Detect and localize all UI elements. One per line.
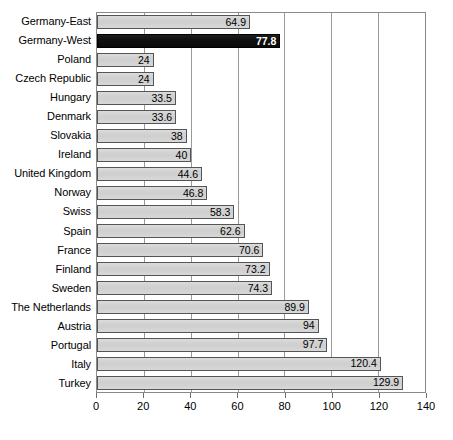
bar-row: 24 (97, 70, 425, 89)
bar-row: 94 (97, 316, 425, 335)
bar-value-label: 24 (138, 55, 153, 66)
bar-value-label: 24 (138, 74, 153, 85)
category-label: Norway (0, 183, 94, 202)
bar: 74.3 (97, 281, 272, 295)
category-label: Swiss (0, 202, 94, 221)
x-axis-tick-label: 0 (93, 401, 99, 412)
bar: 77.8 (97, 34, 280, 48)
bar: 33.5 (97, 91, 176, 105)
category-label: Turkey (0, 374, 94, 393)
bar-row: 58.3 (97, 203, 425, 222)
x-axis-tick-label: 80 (278, 401, 290, 412)
bar-value-label: 129.9 (373, 377, 402, 388)
x-axis-tick (426, 393, 427, 398)
category-label: The Netherlands (0, 298, 94, 317)
bar-row: 129.9 (97, 373, 425, 392)
bar: 62.6 (97, 224, 245, 238)
bar-value-label: 64.9 (226, 17, 249, 28)
bar: 129.9 (97, 376, 403, 390)
bar: 44.6 (97, 167, 202, 181)
bar-value-label: 89.9 (284, 302, 307, 313)
bar-value-label: 40 (176, 150, 191, 161)
category-axis: Germany-EastGermany-WestPolandCzech Repu… (0, 12, 94, 393)
category-label: Hungary (0, 88, 94, 107)
bar: 33.6 (97, 110, 176, 124)
category-label: United Kingdom (0, 164, 94, 183)
category-label: Portugal (0, 336, 94, 355)
bar: 46.8 (97, 186, 207, 200)
bar: 94 (97, 319, 319, 333)
bar: 64.9 (97, 15, 250, 29)
bar: 58.3 (97, 205, 234, 219)
bar-row: 33.6 (97, 108, 425, 127)
category-label: Austria (0, 317, 94, 336)
bar: 120.4 (97, 357, 381, 371)
x-axis-tick (332, 393, 333, 398)
x-axis-tick-label: 100 (323, 401, 341, 412)
x-axis-tick-label: 120 (370, 401, 388, 412)
bar: 24 (97, 72, 154, 86)
bar-value-label: 77.8 (256, 36, 279, 47)
bar-value-label: 33.5 (152, 93, 175, 104)
bar: 70.6 (97, 243, 263, 257)
category-label: Germany-West (0, 31, 94, 50)
category-label: France (0, 241, 94, 260)
bar-row: 40 (97, 146, 425, 165)
bar-row: 38 (97, 127, 425, 146)
bar-value-label: 33.6 (152, 112, 175, 123)
category-label: Italy (0, 355, 94, 374)
bar-row: 46.8 (97, 184, 425, 203)
x-axis-tick (379, 393, 380, 398)
plot-area: 64.977.8242433.533.6384044.646.858.362.6… (96, 12, 426, 393)
bar-value-label: 46.8 (183, 188, 206, 199)
x-axis-tick-label: 40 (184, 401, 196, 412)
bar-row: 89.9 (97, 297, 425, 316)
category-label: Germany-East (0, 12, 94, 31)
bar-row: 44.6 (97, 165, 425, 184)
bar-row: 77.8 (97, 32, 425, 51)
bar-row: 73.2 (97, 259, 425, 278)
category-label: Slovakia (0, 126, 94, 145)
x-axis: 020406080100120140 (96, 393, 426, 433)
category-label: Spain (0, 222, 94, 241)
x-axis-tick-label: 60 (231, 401, 243, 412)
bar: 24 (97, 53, 154, 67)
bar-value-label: 38 (171, 131, 186, 142)
bar-value-label: 70.6 (239, 245, 262, 256)
bar-series: 64.977.8242433.533.6384044.646.858.362.6… (97, 13, 425, 392)
x-axis-tick-label: 20 (137, 401, 149, 412)
bar-value-label: 58.3 (210, 207, 233, 218)
bar-value-label: 94 (303, 320, 318, 331)
bar-row: 70.6 (97, 240, 425, 259)
bar-row: 97.7 (97, 335, 425, 354)
bar-value-label: 97.7 (303, 339, 326, 350)
x-axis-tick-label: 140 (417, 401, 435, 412)
category-label: Czech Republic (0, 69, 94, 88)
category-label: Denmark (0, 107, 94, 126)
bar-value-label: 74.3 (248, 283, 271, 294)
bar-row: 62.6 (97, 221, 425, 240)
bar-row: 64.9 (97, 13, 425, 32)
bar-value-label: 44.6 (178, 169, 201, 180)
category-label: Finland (0, 260, 94, 279)
bar-row: 120.4 (97, 354, 425, 373)
x-axis-tick (285, 393, 286, 398)
x-axis-tick (96, 393, 97, 398)
bar-chart: Germany-EastGermany-WestPolandCzech Repu… (0, 0, 453, 440)
bar: 38 (97, 129, 187, 143)
bar-value-label: 120.4 (351, 358, 380, 369)
category-label: Sweden (0, 279, 94, 298)
bar-value-label: 62.6 (220, 226, 243, 237)
category-label: Poland (0, 50, 94, 69)
bar: 40 (97, 148, 191, 162)
x-axis-tick (237, 393, 238, 398)
category-label: Ireland (0, 145, 94, 164)
x-axis-tick (143, 393, 144, 398)
bar-row: 74.3 (97, 278, 425, 297)
bar-row: 33.5 (97, 89, 425, 108)
bar: 73.2 (97, 262, 270, 276)
bar-value-label: 73.2 (245, 264, 268, 275)
bar: 97.7 (97, 338, 327, 352)
bar: 89.9 (97, 300, 309, 314)
bar-row: 24 (97, 51, 425, 70)
